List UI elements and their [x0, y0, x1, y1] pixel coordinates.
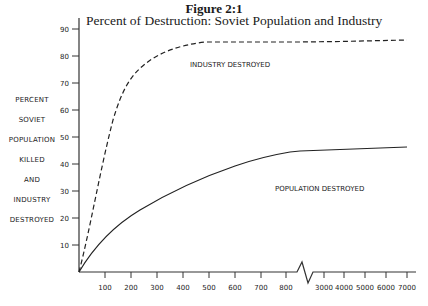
x-tick-label: 800 [279, 284, 292, 292]
y-tick-labels: 10 20 30 40 50 60 70 80 90 [60, 26, 69, 250]
plot-area: 10 20 30 40 50 60 70 80 90 100 200 300 4… [0, 0, 428, 306]
x-tick-label: 3000 [315, 284, 333, 292]
x-tick-label: 200 [124, 284, 137, 292]
x-tick-label: 700 [254, 284, 267, 292]
x-tick-label: 100 [98, 284, 111, 292]
y-tick-label: 70 [60, 80, 69, 88]
x-tick-label: 7000 [398, 284, 416, 292]
y-tick-label: 10 [60, 242, 69, 250]
y-tick-label: 30 [60, 188, 69, 196]
x-tick-label: 6000 [377, 284, 395, 292]
x-tick-label: 4000 [335, 284, 353, 292]
population-destroyed-line [79, 147, 407, 272]
y-ticks [72, 29, 79, 245]
y-tick-label: 50 [60, 134, 69, 142]
y-tick-label: 90 [60, 26, 69, 34]
x-ticks [105, 272, 407, 278]
y-tick-label: 20 [60, 215, 69, 223]
x-tick-label: 600 [228, 284, 241, 292]
x-tick-label: 5000 [356, 284, 374, 292]
industry-destroyed-line [79, 40, 407, 272]
x-tick-label: 300 [150, 284, 163, 292]
x-tick-label: 500 [202, 284, 215, 292]
y-tick-label: 60 [60, 107, 69, 115]
x-tick-label: 400 [176, 284, 189, 292]
x-tick-labels: 100 200 300 400 500 600 700 800 3000 400… [98, 284, 416, 292]
y-tick-label: 80 [60, 53, 69, 61]
y-tick-label: 40 [60, 161, 69, 169]
